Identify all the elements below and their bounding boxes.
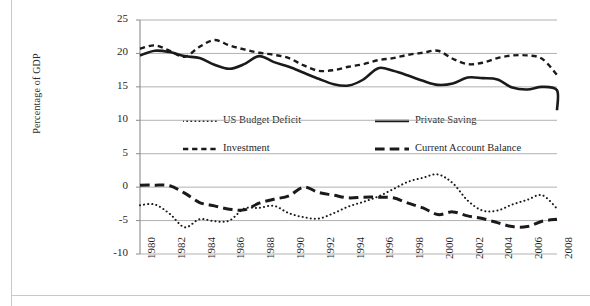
series-line-private-saving [140, 51, 558, 111]
series-line-us-budget-deficit [140, 174, 557, 227]
plot-area [0, 0, 590, 306]
chart-figure: Percentage of GDP 2520151050-5-10 198019… [0, 0, 590, 306]
series-line-investment [140, 40, 557, 75]
